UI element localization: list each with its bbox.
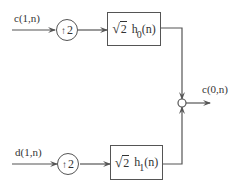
bottom-filter-box: √2 h1(n) — [110, 145, 163, 180]
gain-value: 2 — [120, 21, 127, 36]
bottom-filter-to-sum-line — [163, 107, 182, 164]
up-arrow-icon: ↑ — [61, 25, 66, 36]
gain-value: 2 — [122, 155, 129, 170]
sqrt-gain: √2 — [112, 21, 127, 37]
sum-node — [178, 99, 186, 107]
bottom-upsampler: ↑ 2 — [57, 153, 79, 175]
filter-subscript: 0 — [137, 29, 142, 40]
upsample-factor: 2 — [67, 23, 73, 38]
filter-function: h0(n) — [132, 22, 156, 37]
filter-arg: (n) — [142, 22, 156, 36]
filter-function: h1(n) — [134, 155, 158, 170]
top-input-label: c(1,n) — [14, 12, 40, 24]
top-filter-box: √2 h0(n) — [107, 12, 161, 46]
sqrt-symbol-icon: √ — [112, 21, 120, 36]
bottom-input-label: d(1,n) — [15, 146, 42, 158]
output-label: c(0,n) — [202, 83, 228, 95]
filter-arg: (n) — [144, 155, 158, 169]
filter-subscript: 1 — [139, 162, 144, 173]
upsample-factor: 2 — [68, 157, 74, 172]
top-filter-to-sum-line — [161, 28, 182, 99]
top-upsampler: ↑ 2 — [56, 19, 78, 41]
up-arrow-icon: ↑ — [62, 159, 67, 170]
sqrt-gain: √2 — [115, 155, 130, 171]
